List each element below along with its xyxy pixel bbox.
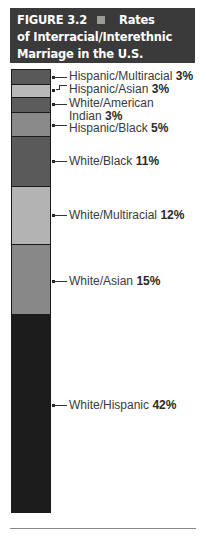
leader-line <box>53 161 67 162</box>
leader-line <box>59 85 67 86</box>
figure-title-line2: of Interracial/Interethnic <box>17 30 172 44</box>
label-hispanic-asian: Hispanic/Asian 3% <box>69 83 169 96</box>
figure-title-line1: Rates <box>119 13 155 27</box>
leader-line <box>53 104 67 105</box>
leader-line <box>53 405 67 406</box>
figure-label: FIGURE 3.2 <box>17 13 87 27</box>
segment-white-hispanic <box>11 314 51 513</box>
segment-white-multiracial <box>11 186 51 245</box>
label-white-hispanic: White/Hispanic 42% <box>69 399 176 412</box>
leader-line <box>53 281 67 282</box>
label-white-black: White/Black 11% <box>69 155 159 168</box>
label-hispanic-black: Hispanic/Black 5% <box>69 122 168 135</box>
square-bullet-icon <box>97 16 105 24</box>
label-white-asian: White/Asian 15% <box>69 275 160 288</box>
leader-line <box>53 77 67 78</box>
footer-rule <box>10 528 196 529</box>
figure-header: FIGURE 3.2Rates of Interracial/Interethn… <box>10 8 195 63</box>
segment-hispanic-multiracial <box>11 69 51 85</box>
figure-title-line3: Marriage in the U.S. <box>17 47 143 61</box>
segment-white-american-indian <box>11 97 51 113</box>
segment-white-asian <box>11 244 51 315</box>
segment-white-black <box>11 136 51 187</box>
leader-line <box>53 215 67 216</box>
leader-line <box>53 125 67 126</box>
label-white-american-indian: White/AmericanIndian 3% <box>69 97 154 123</box>
label-white-multiracial: White/Multiracial 12% <box>69 209 184 222</box>
segment-hispanic-black <box>11 112 51 137</box>
leader-dot <box>52 89 55 92</box>
segment-hispanic-asian <box>11 84 51 98</box>
